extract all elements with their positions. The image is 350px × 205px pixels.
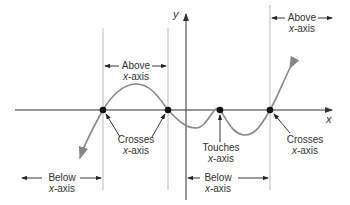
x-axis-label: x	[326, 113, 332, 125]
label-below-right: Below x-axis	[200, 172, 236, 194]
polynomial-curve	[80, 68, 290, 158]
label-above-right: Above x-axis	[284, 12, 320, 34]
label-above-left: Above x-axis	[118, 60, 154, 82]
label-below-left: Below x-axis	[44, 172, 80, 194]
label-touches: Touches x-axis	[199, 142, 243, 164]
label-crosses-right: Crosses x-axis	[285, 134, 325, 156]
y-axis-label: y	[173, 8, 179, 20]
label-crosses-left: Crosses x-axis	[116, 134, 156, 156]
